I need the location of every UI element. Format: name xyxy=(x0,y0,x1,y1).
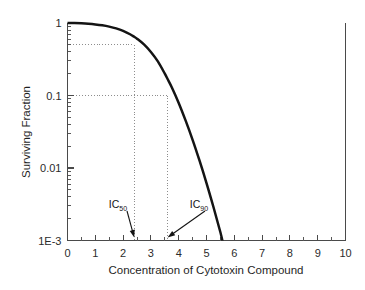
ic50-base: IC xyxy=(109,198,120,210)
x-tick-label: 7 xyxy=(259,247,265,259)
y-tick-label: 0.1 xyxy=(46,90,61,102)
x-tick-label: 2 xyxy=(120,247,126,259)
y-tick-label: 1E-3 xyxy=(38,235,61,247)
x-tick-label: 1 xyxy=(92,247,98,259)
ic90-base: IC xyxy=(190,198,201,210)
y-tick-label: 1 xyxy=(55,17,61,29)
ic50-subscript: 50 xyxy=(119,205,127,212)
x-tick-label: 10 xyxy=(339,247,351,259)
x-tick-label: 4 xyxy=(176,247,182,259)
x-tick-label: 9 xyxy=(315,247,321,259)
x-tick-label: 3 xyxy=(148,247,154,259)
ic90-subscript: 90 xyxy=(200,205,208,212)
chart-figure: 10.10.011E-3 012345678910 IC50 IC90 Conc… xyxy=(0,0,365,290)
x-tick-label: 5 xyxy=(203,247,209,259)
x-axis-title: Concentration of Cytotoxin Compound xyxy=(109,264,304,276)
y-tick-label: 0.01 xyxy=(40,162,61,174)
x-tick-label: 6 xyxy=(231,247,237,259)
x-tick-label: 0 xyxy=(64,247,70,259)
y-axis-title: Surviving Fraction xyxy=(20,86,32,178)
survival-curve-chart: 10.10.011E-3 012345678910 IC50 IC90 Conc… xyxy=(0,0,365,290)
chart-background xyxy=(0,0,365,290)
x-tick-label: 8 xyxy=(287,247,293,259)
